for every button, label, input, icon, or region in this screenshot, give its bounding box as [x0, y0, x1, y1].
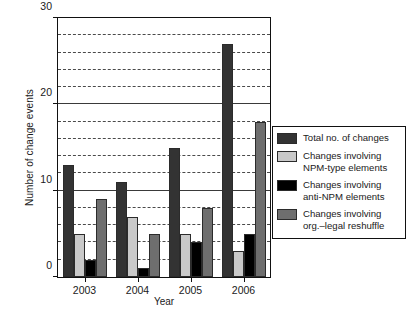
bar-group-2005 — [164, 18, 217, 277]
bar-2005-series-3 — [202, 208, 213, 277]
x-tick-label-2004: 2004 — [126, 284, 149, 296]
x-tick-label-2006: 2006 — [232, 284, 255, 296]
bar-2006-series-3 — [255, 122, 266, 277]
x-tick-label-2005: 2005 — [179, 284, 202, 296]
legend-label-total: Total no. of changes — [303, 132, 389, 144]
x-tick-mark — [138, 277, 139, 282]
legend-item-anti-npm: Changes involving anti-NPM elements — [277, 179, 401, 202]
bar-2003-series-3 — [96, 199, 107, 277]
bar-2005-series-2 — [191, 242, 202, 277]
y-tick-label: 0 — [46, 259, 52, 271]
x-tick-mark — [244, 277, 245, 282]
bar-2004-series-0 — [116, 182, 127, 277]
x-tick-label-2003: 2003 — [73, 284, 96, 296]
y-tick-label: 10 — [40, 173, 52, 185]
plot-area: 0102030 2003200420052006 — [57, 17, 271, 278]
bar-2003-series-2 — [85, 260, 96, 277]
bar-2006-series-2 — [244, 234, 255, 277]
bar-2004-series-1 — [127, 217, 138, 277]
bar-2003-series-0 — [63, 165, 74, 277]
y-axis-title: Number of change events — [24, 58, 35, 238]
legend-item-total: Total no. of changes — [277, 132, 401, 144]
legend-swatch-total — [277, 133, 297, 144]
legend-swatch-npm-type — [277, 151, 297, 162]
y-tick-label: 30 — [40, 0, 52, 12]
legend-label-org-legal: Changes involving org.–legal reshuffle — [303, 208, 384, 231]
bar-group-2006 — [217, 18, 270, 277]
legend-item-org-legal: Changes involving org.–legal reshuffle — [277, 208, 401, 231]
legend-label-anti-npm: Changes involving anti-NPM elements — [303, 179, 385, 202]
bar-2006-series-1 — [233, 251, 244, 277]
bar-2004-series-3 — [149, 234, 160, 277]
bar-chart-figure: Number of change events 0102030 20032004… — [0, 0, 411, 314]
x-tick-mark — [85, 277, 86, 282]
bar-2003-series-1 — [74, 234, 85, 277]
bar-2004-series-2 — [138, 268, 149, 277]
y-tick-label: 20 — [40, 86, 52, 98]
chart-legend: Total no. of changes Changes involving N… — [272, 126, 406, 239]
legend-swatch-org-legal — [277, 209, 297, 220]
bar-2006-series-0 — [222, 44, 233, 277]
bar-2005-series-0 — [169, 148, 180, 278]
legend-swatch-anti-npm — [277, 180, 297, 191]
bar-2005-series-1 — [180, 234, 191, 277]
bar-group-2003 — [58, 18, 111, 277]
x-axis-title: Year — [57, 296, 271, 307]
bar-group-2004 — [111, 18, 164, 277]
legend-label-npm-type: Changes involving NPM-type elements — [303, 150, 387, 173]
legend-item-npm-type: Changes involving NPM-type elements — [277, 150, 401, 173]
bars-layer: 2003200420052006 — [58, 18, 270, 277]
x-tick-mark — [191, 277, 192, 282]
